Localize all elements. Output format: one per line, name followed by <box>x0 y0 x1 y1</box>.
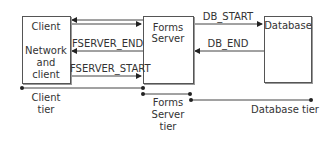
database-title: Database <box>264 20 312 32</box>
edge-label-db-start: DB_START <box>194 11 262 23</box>
forms-tier-line2: Server <box>143 109 193 121</box>
client-sub3: client <box>22 69 70 81</box>
client-tier-line1: Client <box>22 92 70 104</box>
client-sub2: and <box>22 57 70 69</box>
edge-label-fserver-end: FSERVER_END <box>72 38 142 50</box>
client-tier-line2: tier <box>22 104 70 116</box>
edge-label-db-end: DB_END <box>194 38 262 50</box>
forms-server-line2: Server <box>143 33 193 45</box>
forms-tier-line3: tier <box>143 121 193 133</box>
client-sub1: Network <box>22 45 70 57</box>
forms-tier-line1: Forms <box>143 97 193 109</box>
edge-label-fserver-start: FSERVER_START <box>70 63 143 75</box>
client-title: Client <box>22 21 70 33</box>
database-tier-label: Database tier <box>250 104 320 116</box>
